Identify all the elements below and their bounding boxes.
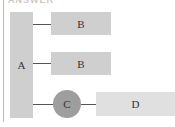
node-b-middle-label: B	[77, 58, 84, 70]
node-a: A	[10, 12, 33, 118]
edge-a-c	[33, 104, 54, 105]
edge-a-b2	[33, 63, 51, 64]
node-b-top-label: B	[77, 18, 84, 30]
node-a-label: A	[18, 59, 26, 71]
edge-c-d	[81, 104, 96, 105]
node-c: C	[53, 90, 81, 118]
node-d: D	[96, 92, 175, 116]
left-border-line	[3, 0, 4, 122]
node-d-label: D	[132, 98, 140, 110]
node-b-top: B	[51, 12, 111, 35]
node-b-middle: B	[51, 52, 111, 75]
node-c-label: C	[63, 98, 70, 110]
edge-a-b1	[33, 24, 51, 25]
answer-heading: ANSWER	[8, 0, 54, 5]
